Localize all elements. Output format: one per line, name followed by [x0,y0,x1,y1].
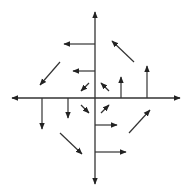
vector-field-diagram [0,0,191,193]
diag-arrow-lower-right-icon [129,110,150,133]
center-arrow-lr-icon [101,105,109,113]
diagram-svg [0,0,191,193]
center-arrow-ll-icon [81,105,89,113]
center-arrow-ul-icon [81,83,89,91]
diag-arrow-lower-left-icon [60,133,82,154]
diag-arrow-upper-right-icon [112,41,134,62]
axes [12,12,180,184]
diag-arrow-upper-left-icon [40,62,60,85]
center-arrow-ur-icon [101,83,109,91]
